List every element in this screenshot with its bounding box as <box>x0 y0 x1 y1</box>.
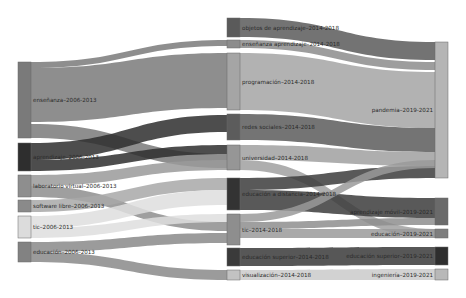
node-label-c2-programacion: programación–2014-2018 <box>242 79 315 86</box>
node-c1-tic[interactable] <box>18 216 31 238</box>
node-label-c1-dark: aprendizaje–2006-2013 <box>33 154 99 161</box>
node-label-c1-educacion: educación–2006-2013 <box>33 249 95 255</box>
node-label-c2-edusup: educación superior–2014-2018 <box>242 254 329 261</box>
node-label-c3-ingenieria: ingeniería–2019-2021 <box>372 272 434 279</box>
node-c3-educacion[interactable] <box>435 229 448 238</box>
node-c1-labvirtual[interactable] <box>18 175 31 197</box>
node-label-c2-tic: tic–2014-2018 <box>242 227 283 233</box>
node-label-c1-ensenanza: enseñanza–2006-2013 <box>33 97 97 103</box>
node-label-c2-objetos: objetos de aprendizaje–2014-2018 <box>242 25 339 32</box>
node-c1-ensenanza[interactable] <box>18 62 31 138</box>
node-c1-dark[interactable] <box>18 143 31 171</box>
node-c3-edusup[interactable] <box>435 247 448 265</box>
node-c1-softlibre[interactable] <box>18 200 31 212</box>
node-c3-aprmovil[interactable] <box>435 198 448 225</box>
node-label-c3-pandemia: pandemia–2019-2021 <box>372 107 434 114</box>
node-label-c1-softlibre: software libre–2006-2013 <box>33 203 105 209</box>
node-label-c2-redes: redes sociales–2014-2018 <box>242 124 315 130</box>
flow-link-c1-educacion-to-c2-visual[interactable] <box>31 252 227 280</box>
node-c1-educacion[interactable] <box>18 242 31 262</box>
node-c2-universidad[interactable] <box>227 145 240 170</box>
node-c2-visual[interactable] <box>227 270 240 280</box>
node-c3-pandemia[interactable] <box>435 42 448 178</box>
node-label-c3-educacion: educación–2019-2021 <box>371 231 433 237</box>
node-label-c2-universidad: universidad–2014-2018 <box>242 155 308 161</box>
node-label-c2-ensapr: enseñanza aprendizaje–2014-2018 <box>242 41 340 48</box>
node-c2-tic[interactable] <box>227 214 240 245</box>
node-c2-programacion[interactable] <box>227 53 240 110</box>
node-label-c1-tic: tic–2006-2013 <box>33 224 74 230</box>
node-label-c2-visual: visualización–2014-2018 <box>242 272 312 278</box>
node-label-c3-aprmovil: aprendizaje móvil–2019-2021 <box>350 209 433 216</box>
sankey-diagram: enseñanza–2006-2013aprendizaje–2006-2013… <box>0 0 466 298</box>
node-c2-ensapr[interactable] <box>227 40 240 48</box>
node-c2-edudist[interactable] <box>227 178 240 210</box>
node-label-c1-labvirtual: laboratorio virtual–2006-2013 <box>33 183 117 189</box>
node-label-c3-edusup: educación superior–2019-2021 <box>346 253 433 260</box>
node-c2-edusup[interactable] <box>227 248 240 266</box>
node-c2-redes[interactable] <box>227 114 240 140</box>
node-label-c2-edudist: educación a distancia–2014-2018 <box>242 191 337 197</box>
node-c3-ingenieria[interactable] <box>435 269 448 280</box>
node-c2-objetos[interactable] <box>227 18 240 37</box>
